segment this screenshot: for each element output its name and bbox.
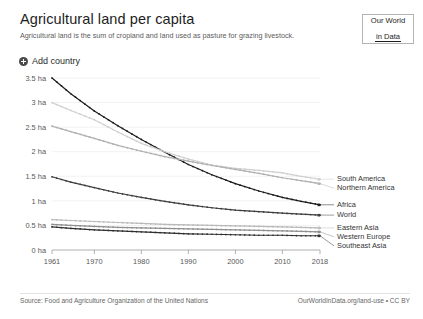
series-point <box>103 189 105 191</box>
legend-label[interactable]: Eastern Asia <box>337 223 379 232</box>
series-point <box>253 189 255 191</box>
series-point <box>103 140 105 142</box>
legend-label[interactable]: Western Europe <box>337 232 390 241</box>
legend-endpoint-marker <box>318 204 321 207</box>
series-point <box>253 211 255 213</box>
series-point <box>183 224 185 226</box>
series-point <box>65 89 67 91</box>
series-point <box>61 179 63 181</box>
series-point <box>244 170 246 172</box>
series-point <box>84 228 86 230</box>
series-point <box>263 170 265 172</box>
series-point <box>117 144 119 146</box>
series-point <box>51 224 53 226</box>
series-point <box>150 198 152 200</box>
series-point <box>235 169 237 171</box>
series-point <box>267 211 269 213</box>
series-point <box>169 157 171 159</box>
series-point <box>131 148 133 150</box>
series-point <box>296 230 298 232</box>
series-point <box>267 174 269 176</box>
series-point <box>202 170 204 172</box>
series-point <box>267 234 269 236</box>
series-point <box>89 229 91 231</box>
series-point <box>314 214 316 216</box>
series-point <box>183 203 185 205</box>
series-point <box>122 227 124 229</box>
footer-link[interactable]: OurWorldInData.org/land-use • CC BY <box>298 297 410 304</box>
series-point <box>249 234 251 236</box>
series-point <box>178 155 180 157</box>
series-point <box>117 227 119 229</box>
series-point <box>225 179 227 181</box>
series-point <box>300 235 302 237</box>
series-point <box>84 115 86 117</box>
series-point <box>56 226 58 228</box>
series-point <box>136 222 138 224</box>
series-point <box>75 220 77 222</box>
series-point <box>258 170 260 172</box>
series-point <box>117 192 119 194</box>
series-point <box>155 227 157 229</box>
logo-line-1: Our World <box>366 17 410 25</box>
series-point <box>131 138 133 140</box>
series-point <box>112 226 114 228</box>
series-point <box>140 143 142 145</box>
series-point <box>61 224 63 226</box>
series-point <box>136 140 138 142</box>
series-point <box>150 144 152 146</box>
series-point <box>122 146 124 148</box>
series-point <box>202 233 204 235</box>
series-point <box>282 230 284 232</box>
series-point <box>155 154 157 156</box>
series-point <box>239 229 241 231</box>
series-point <box>239 225 241 227</box>
series-point <box>253 172 255 174</box>
series-point <box>89 225 91 227</box>
series-point <box>93 110 95 112</box>
series-point <box>145 227 147 229</box>
legend-label[interactable]: Northern America <box>337 183 395 192</box>
series-point <box>126 222 128 224</box>
add-country-button[interactable]: Add country <box>19 56 80 66</box>
legend-label[interactable]: Southeast Asia <box>337 241 387 250</box>
legend-connector <box>320 184 334 189</box>
series-point <box>126 194 128 196</box>
series-point <box>173 202 175 204</box>
series-point <box>183 157 185 159</box>
series-point <box>296 235 298 237</box>
series-point <box>230 225 232 227</box>
series-point <box>173 154 175 156</box>
x-tick-label: 2010 <box>274 257 290 266</box>
series-point <box>75 228 77 230</box>
series-point <box>211 207 213 209</box>
series-point <box>93 226 95 228</box>
series-point <box>70 228 72 230</box>
series-point <box>192 159 194 161</box>
series-point <box>216 165 218 167</box>
series-point <box>244 210 246 212</box>
legend-label[interactable]: World <box>337 210 356 219</box>
legend-endpoint-marker <box>318 235 321 238</box>
series-point <box>112 129 114 131</box>
series-point <box>159 149 161 151</box>
our-world-in-data-logo[interactable]: Our World in Data <box>362 14 414 44</box>
series-point <box>206 228 208 230</box>
series-point <box>79 100 81 102</box>
series-point <box>235 225 237 227</box>
series-point <box>169 228 171 230</box>
series-point <box>258 234 260 236</box>
series-point <box>296 200 298 202</box>
series-point <box>253 234 255 236</box>
chart-legend: South AmericaNorthern AmericaAfricaWorld… <box>318 174 396 250</box>
series-point <box>220 225 222 227</box>
series-point <box>89 107 91 109</box>
series-point <box>188 158 190 160</box>
series-point <box>140 231 142 233</box>
series-point <box>197 205 199 207</box>
series-point <box>56 224 58 226</box>
series-point <box>79 228 81 230</box>
series-point <box>145 151 147 153</box>
legend-label[interactable]: South America <box>337 174 386 183</box>
legend-label[interactable]: Africa <box>337 200 357 209</box>
